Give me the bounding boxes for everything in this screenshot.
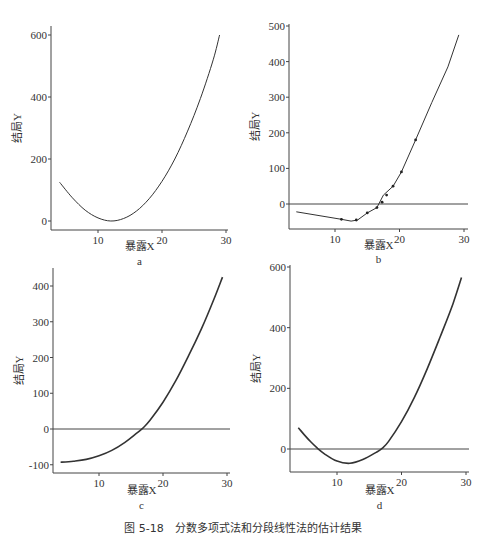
y-tick-label: 400 <box>270 322 287 334</box>
panel-b-chart: 0100200300400500102030暴露X结局Yb <box>249 20 470 265</box>
figure-caption: 图 5-18 分数多项式法和分段线性法的估计结果 <box>0 519 486 535</box>
data-point <box>385 194 388 197</box>
y-axis-label: 结局Y <box>13 355 25 385</box>
data-point <box>400 171 403 174</box>
y-tick-label: 100 <box>33 387 50 399</box>
x-tick-label: 20 <box>396 476 408 488</box>
y-tick-label: 300 <box>269 91 286 103</box>
data-point <box>340 218 343 221</box>
y-tick-label: 200 <box>269 127 286 139</box>
data-point <box>414 139 417 142</box>
figure-canvas: 0200400600102030暴露X结局Ya 0100200300400500… <box>0 0 486 535</box>
y-tick-label: 0 <box>42 215 48 227</box>
y-tick-label: 200 <box>31 153 48 165</box>
x-tick-label: 20 <box>394 233 406 245</box>
x-axis-label: 暴露X <box>125 240 155 252</box>
y-axis-label: 结局Y <box>11 113 23 143</box>
x-axis-label: 暴露X <box>127 484 157 496</box>
panel-subtitle: b <box>376 253 382 265</box>
fitted-curve <box>296 35 459 221</box>
y-axis-label: 结局Y <box>249 111 261 141</box>
y-tick-label: 600 <box>31 29 48 41</box>
panel-subtitle: d <box>377 499 383 511</box>
x-tick-label: 10 <box>332 476 344 488</box>
x-tick-label: 30 <box>459 233 471 245</box>
y-tick-label: 600 <box>270 261 287 273</box>
x-axis-label: 暴露X <box>364 239 394 251</box>
y-tick-label: 400 <box>33 280 50 292</box>
data-point <box>355 219 358 222</box>
x-tick-label: 30 <box>222 477 234 489</box>
x-tick-label: 20 <box>157 234 169 246</box>
y-tick-label: 500 <box>269 20 286 32</box>
data-point <box>381 201 384 204</box>
y-tick-label: 0 <box>281 443 287 455</box>
panel-d-chart: 0200400600102030暴露X结局Yd <box>250 261 472 511</box>
x-axis-label: 暴露X <box>365 484 395 496</box>
data-point <box>392 185 395 188</box>
data-point <box>366 212 369 215</box>
y-tick-label: 100 <box>269 162 286 174</box>
x-tick-label: 10 <box>93 234 105 246</box>
x-tick-label: 10 <box>94 477 106 489</box>
y-tick-label: -100 <box>29 459 50 471</box>
panel-subtitle: c <box>139 499 144 511</box>
panel-a-chart: 0200400600102030暴露X结局Ya <box>11 26 232 267</box>
fitted-curve <box>60 35 220 221</box>
y-tick-label: 400 <box>31 91 48 103</box>
y-tick-label: 200 <box>270 382 287 394</box>
x-tick-label: 30 <box>461 476 473 488</box>
y-tick-label: 0 <box>44 423 50 435</box>
fitted-curve <box>298 278 461 464</box>
y-tick-label: 200 <box>33 352 50 364</box>
x-tick-label: 10 <box>330 233 342 245</box>
y-tick-label: 400 <box>269 56 286 68</box>
x-tick-label: 20 <box>158 477 170 489</box>
fitted-curve <box>61 277 223 462</box>
y-tick-label: 300 <box>33 316 50 328</box>
panel-subtitle: a <box>137 255 142 267</box>
y-tick-label: 0 <box>280 198 286 210</box>
data-point <box>376 206 379 209</box>
panel-c-chart: -1000100200300400102030暴露X结局Yc <box>13 268 233 511</box>
x-tick-label: 30 <box>221 234 233 246</box>
y-axis-label: 结局Y <box>250 353 262 383</box>
